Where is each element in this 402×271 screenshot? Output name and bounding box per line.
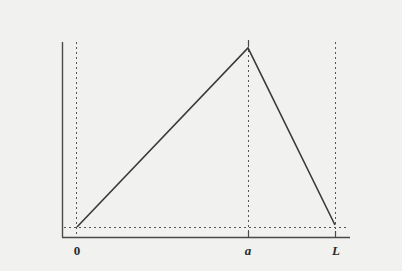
tent-curve — [77, 48, 335, 227]
plot-svg — [0, 0, 402, 271]
diagram-canvas: 0 a L — [0, 0, 402, 271]
x-tick-label-0: 0 — [74, 244, 81, 257]
x-tick-label-L: L — [332, 244, 340, 257]
x-tick-label-a: a — [245, 244, 252, 257]
